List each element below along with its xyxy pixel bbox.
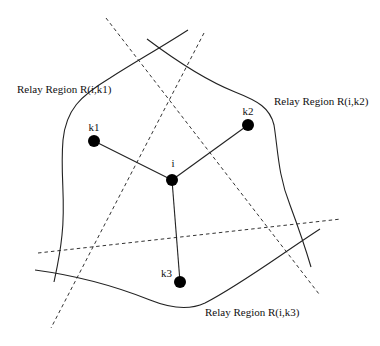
- label-relay-region-k3: Relay Region R(i,k3): [205, 306, 300, 319]
- bisector-k2-k3: [38, 219, 341, 253]
- node-k3: [174, 276, 186, 288]
- relay-region-boundary-k3: [35, 229, 320, 307]
- relay-region-boundary-k2: [147, 39, 311, 267]
- node-i: [166, 174, 178, 186]
- bisector-i-k1-k2: [106, 18, 319, 294]
- node-k1: [88, 135, 100, 147]
- node-label-k3: k3: [161, 267, 173, 279]
- label-relay-region-k2: Relay Region R(i,k2): [274, 95, 369, 108]
- label-relay-region-k1: Relay Region R(i,k1): [17, 83, 112, 96]
- node-label-k2: k2: [243, 105, 254, 117]
- node-label-k1: k1: [89, 121, 100, 133]
- edge-i-k2: [172, 125, 248, 180]
- node-label-i: i: [171, 157, 174, 169]
- node-k2: [242, 119, 254, 131]
- edge-i-k1: [94, 141, 172, 180]
- edge-i-k3: [172, 180, 180, 282]
- region-labels: Relay Region R(i,k1)Relay Region R(i,k2)…: [17, 83, 369, 319]
- relay-region-boundaries: [35, 30, 320, 307]
- nodes: ik1k2k3: [88, 105, 254, 288]
- edges: [94, 125, 248, 282]
- bisector-lines: [38, 18, 341, 328]
- relay-region-diagram: ik1k2k3 Relay Region R(i,k1)Relay Region…: [0, 0, 380, 346]
- relay-region-boundary-k1: [54, 30, 188, 282]
